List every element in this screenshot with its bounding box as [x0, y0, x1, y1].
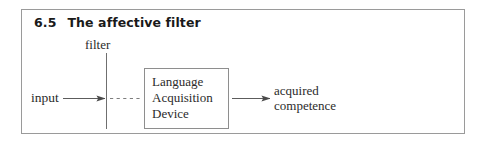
figure-frame: 6.5 The affective filter filter input La… — [21, 9, 465, 134]
figure-container: 6.5 The affective filter filter input La… — [0, 0, 486, 145]
diagram-canvas: filter input Language Acquisition Device… — [22, 10, 466, 135]
diagram-arrows — [22, 10, 466, 135]
